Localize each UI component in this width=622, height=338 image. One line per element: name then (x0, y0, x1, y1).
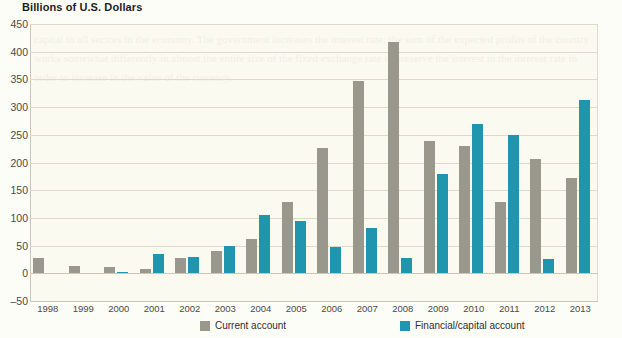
y-tick--50: –50 (0, 296, 28, 306)
legend-label-financial-capital-account: Financial/capital account (415, 320, 525, 331)
bar-financial-capital-account-2000 (117, 272, 128, 274)
legend-item-financial-capital-account: Financial/capital account (400, 320, 525, 331)
bar-financial-capital-account-2011 (508, 135, 519, 274)
y-tick-400: 400 (0, 47, 28, 57)
legend-item-current-account: Current account (200, 320, 286, 331)
y-tick-0: 0 (0, 268, 28, 278)
y-tick-200: 200 (0, 158, 28, 168)
x-tick-2003: 2003 (208, 303, 242, 314)
bar-group-2006 (314, 24, 350, 301)
bar-current-account-2013 (566, 178, 577, 273)
x-tick-2008: 2008 (386, 303, 420, 314)
x-tick-2010: 2010 (457, 303, 491, 314)
legend-label-current-account: Current account (215, 320, 286, 331)
bar-current-account-2006 (317, 148, 328, 274)
bar-current-account-2002 (175, 258, 186, 273)
bar-group-2008 (385, 24, 421, 301)
bar-current-account-2008 (388, 42, 399, 274)
bar-group-2005 (279, 24, 315, 301)
legend-swatch-financial-capital-account (400, 321, 410, 331)
bar-group-2007 (350, 24, 386, 301)
x-tick-2005: 2005 (279, 303, 313, 314)
bar-group-2010 (456, 24, 492, 301)
bar-current-account-1998 (33, 258, 44, 273)
x-tick-2007: 2007 (350, 303, 384, 314)
bar-financial-capital-account-2007 (366, 228, 377, 273)
gridline--50 (30, 301, 598, 302)
bar-group-2013 (563, 24, 599, 301)
bar-financial-capital-account-2003 (224, 246, 235, 274)
bar-current-account-2012 (530, 159, 541, 274)
bar-current-account-1999 (69, 266, 80, 273)
bar-financial-capital-account-2005 (295, 221, 306, 274)
x-tick-2012: 2012 (528, 303, 562, 314)
x-tick-1998: 1998 (31, 303, 65, 314)
bar-financial-capital-account-2004 (259, 215, 270, 273)
bar-financial-capital-account-2008 (401, 258, 412, 273)
bar-current-account-2007 (353, 81, 364, 274)
bar-current-account-2001 (140, 269, 151, 273)
bar-financial-capital-account-2002 (188, 257, 199, 274)
chart-container: Billions of U.S. Dollars capital to all … (0, 0, 622, 338)
x-tick-2002: 2002 (173, 303, 207, 314)
bar-current-account-2003 (211, 251, 222, 273)
x-tick-2000: 2000 (102, 303, 136, 314)
chart-title: Billions of U.S. Dollars (22, 1, 142, 13)
bar-current-account-2005 (282, 202, 293, 273)
bar-current-account-2011 (495, 202, 506, 273)
y-tick-450: 450 (0, 19, 28, 29)
x-tick-1999: 1999 (66, 303, 100, 314)
y-tick-100: 100 (0, 213, 28, 223)
y-tick-350: 350 (0, 74, 28, 84)
bar-financial-capital-account-2010 (472, 124, 483, 274)
bar-current-account-2000 (104, 267, 115, 274)
bar-financial-capital-account-2013 (579, 100, 590, 273)
bar-group-2001 (137, 24, 173, 301)
bar-current-account-2009 (424, 141, 435, 273)
bar-group-1998 (30, 24, 66, 301)
x-tick-2013: 2013 (563, 303, 597, 314)
bar-group-2000 (101, 24, 137, 301)
bar-financial-capital-account-2006 (330, 247, 341, 273)
bar-current-account-2004 (246, 239, 257, 273)
bar-group-2009 (421, 24, 457, 301)
bar-group-2003 (208, 24, 244, 301)
bar-financial-capital-account-2012 (543, 259, 554, 273)
legend-swatch-current-account (200, 321, 210, 331)
bars-layer (30, 24, 598, 301)
y-tick-250: 250 (0, 130, 28, 140)
bar-group-2004 (243, 24, 279, 301)
y-tick-150: 150 (0, 185, 28, 195)
x-tick-2009: 2009 (421, 303, 455, 314)
bar-group-1999 (66, 24, 102, 301)
y-tick-300: 300 (0, 102, 28, 112)
bar-financial-capital-account-2001 (153, 254, 164, 273)
bar-financial-capital-account-2009 (437, 174, 448, 274)
x-tick-2006: 2006 (315, 303, 349, 314)
bar-group-2011 (492, 24, 528, 301)
y-tick-50: 50 (0, 241, 28, 251)
chart-legend: Current account Financial/capital accoun… (200, 320, 600, 334)
x-tick-2001: 2001 (137, 303, 171, 314)
bar-current-account-2010 (459, 146, 470, 273)
bar-group-2002 (172, 24, 208, 301)
bar-group-2012 (527, 24, 563, 301)
x-tick-2004: 2004 (244, 303, 278, 314)
x-tick-2011: 2011 (492, 303, 526, 314)
